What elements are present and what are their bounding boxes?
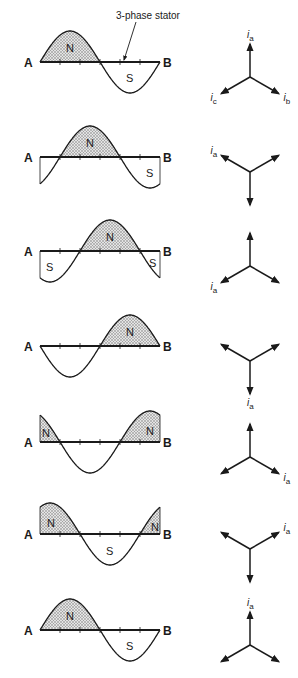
end-label-b: B <box>163 340 172 354</box>
phasor-ic-arrow <box>250 345 279 362</box>
north-pole-label: N <box>146 425 154 437</box>
north-pole-label: N <box>151 521 159 533</box>
phasor-ib-arrow <box>250 645 279 662</box>
north-pole-label: N <box>106 231 114 243</box>
end-label-a: A <box>24 528 33 542</box>
north-pole-label: N <box>86 137 94 149</box>
panel-2: ABNSia <box>24 126 279 205</box>
phasor-ib-arrow <box>221 345 250 362</box>
current-label-ia: ia <box>283 522 290 536</box>
phasor-ib-arrow <box>250 156 279 173</box>
current-label-ia: ia <box>211 145 218 159</box>
phasor-ic-arrow <box>221 645 250 662</box>
north-pole-label: N <box>47 517 55 529</box>
north-pole-region <box>40 411 160 442</box>
stator-annotation: 3-phase stator <box>116 10 181 21</box>
current-label-ib: ib <box>283 92 290 106</box>
north-pole-label: N <box>66 610 74 622</box>
end-label-b: B <box>163 56 172 70</box>
end-label-b: B <box>163 624 172 638</box>
end-label-a: A <box>24 436 33 450</box>
phasor-ia-arrow <box>221 266 250 283</box>
north-pole-region <box>40 503 160 534</box>
phasor-ic-arrow <box>250 266 279 283</box>
end-label-b: B <box>163 245 172 259</box>
phasor-ia-arrow <box>221 156 250 173</box>
current-label-ia: ia <box>247 597 254 611</box>
south-pole-label: S <box>149 257 156 269</box>
end-label-a: A <box>24 56 33 70</box>
panel-4: ABNia <box>24 315 279 411</box>
south-pole-label: S <box>146 167 153 179</box>
end-label-b: B <box>163 436 172 450</box>
end-label-a: A <box>24 245 33 259</box>
panel-6: ABNSNia <box>24 503 291 582</box>
end-label-b: B <box>163 528 172 542</box>
current-label-ia: ia <box>283 472 290 486</box>
phasor-ib-arrow <box>250 77 279 94</box>
north-pole-label: N <box>66 42 74 54</box>
north-pole-label: N <box>126 326 134 338</box>
north-pole-label: N <box>42 427 50 439</box>
annotation-leader-arrow <box>124 22 136 60</box>
panel-7: ABNSia <box>24 597 279 662</box>
panel-1: ABNSiaibic <box>24 29 291 106</box>
panel-5: ABNNia <box>24 411 291 486</box>
end-label-a: A <box>24 151 33 165</box>
current-label-ic: ic <box>211 92 217 106</box>
end-label-a: A <box>24 340 33 354</box>
end-label-a: A <box>24 624 33 638</box>
panels-group: ABNSiaibicABNSiaABSNSiaABNiaABNNiaABNSNi… <box>24 29 291 662</box>
end-label-b: B <box>163 151 172 165</box>
phasor-ia-arrow <box>250 533 279 550</box>
phasor-ic-arrow <box>221 533 250 550</box>
phasor-ic-arrow <box>221 77 250 94</box>
south-pole-label: S <box>126 640 133 652</box>
current-label-ia: ia <box>247 29 254 43</box>
stator-field-diagram: ABNSiaibicABNSiaABSNSiaABNiaABNNiaABNSNi… <box>0 0 298 678</box>
phasor-ia-arrow <box>250 457 279 474</box>
panel-3: ABSNSia <box>24 220 279 295</box>
south-pole-label: S <box>106 545 113 557</box>
current-label-ia: ia <box>247 397 254 411</box>
south-pole-label: S <box>126 72 133 84</box>
phasor-ib-arrow <box>221 457 250 474</box>
current-label-ia: ia <box>211 281 218 295</box>
south-pole-label: S <box>46 261 53 273</box>
